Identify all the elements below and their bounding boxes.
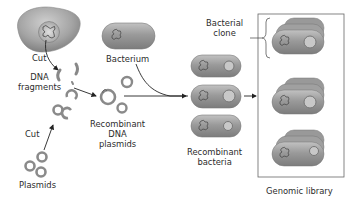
bacterium — [102, 23, 155, 49]
cut-plasmids — [54, 90, 77, 118]
recombinant-plasmids — [101, 77, 132, 113]
bacterium-arrow — [136, 64, 188, 96]
genomic-library-diagram — [0, 0, 352, 203]
nucleus — [39, 22, 60, 43]
label-cut-bottom: Cut — [25, 129, 39, 139]
label-cut-top: Cut — [32, 53, 46, 63]
label-bacterium: Bacterium — [106, 54, 149, 64]
bacterial-clone-brace — [262, 18, 270, 58]
bacterial-clone-stack — [272, 18, 324, 54]
label-recombinant-plasmids: Recombinant DNA plasmids — [90, 119, 145, 149]
bacterial-clone-stack — [272, 130, 324, 166]
eukaryotic-cell — [18, 7, 81, 52]
label-bacterial-clone: Bacterial clone — [206, 18, 243, 38]
recombinant-bacterium — [191, 115, 241, 137]
label-dna-fragments: DNA fragments — [18, 72, 61, 92]
recombinant-bacteria — [191, 55, 241, 137]
recombinant-bacterium — [191, 55, 241, 77]
recombinant-bacterium — [191, 85, 241, 108]
bacterial-clone-stack — [272, 78, 324, 114]
label-recombinant-bacteria: Recombinant bacteria — [187, 147, 242, 167]
label-plasmids: Plasmids — [19, 180, 56, 190]
plasmids — [26, 153, 47, 177]
cut-arrow-bottom — [44, 125, 53, 150]
label-genomic-library: Genomic library — [266, 186, 333, 196]
